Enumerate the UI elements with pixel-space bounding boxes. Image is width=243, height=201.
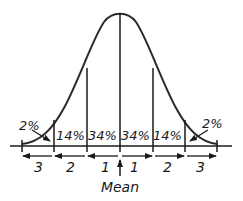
sd-label-right-1: 1 <box>130 159 139 175</box>
sd-label-right-3: 3 <box>196 159 205 175</box>
sd-label-left-1: 1 <box>101 159 110 175</box>
mean-label: Mean <box>101 179 139 195</box>
region-label-right-center: 34% <box>121 128 150 143</box>
region-label-left-tail: 2% <box>19 118 40 133</box>
region-label-right: 14% <box>153 128 182 143</box>
sd-label-left-2: 2 <box>66 159 75 175</box>
region-label-left: 14% <box>56 128 85 143</box>
normal-distribution-diagram: 2% 14% 34% 34% 14% 2% 3 2 1 1 2 3 Mean <box>0 0 243 201</box>
sd-label-right-2: 2 <box>163 159 172 175</box>
region-label-right-tail: 2% <box>202 116 223 131</box>
sd-label-left-3: 3 <box>34 159 43 175</box>
region-label-left-center: 34% <box>88 128 117 143</box>
